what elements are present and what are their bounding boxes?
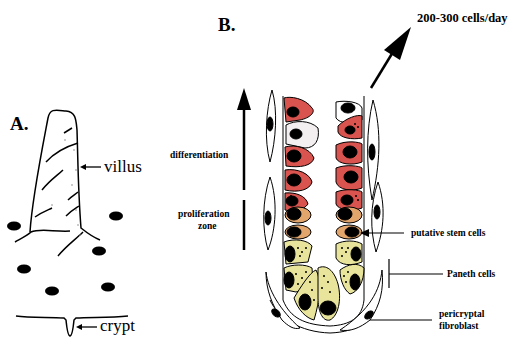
right-cell-column bbox=[336, 101, 362, 239]
fibroblast-label-2: fibroblast bbox=[439, 321, 478, 331]
left-cell-column bbox=[284, 97, 318, 239]
output-rate-label: 200-300 cells/day bbox=[417, 11, 508, 26]
paneth-cells bbox=[284, 240, 364, 320]
crypt-villus-diagram bbox=[0, 0, 529, 348]
stem-cells-label: putative stem cells bbox=[411, 228, 485, 238]
villus-pointer-arrow bbox=[80, 164, 101, 170]
paneth-bracket bbox=[389, 259, 443, 288]
proliferation-label: proliferation bbox=[178, 209, 230, 219]
panel-b-label: B. bbox=[218, 14, 235, 36]
fibroblast-label-1: pericryptal bbox=[439, 309, 484, 319]
crypt-label: crypt bbox=[100, 316, 135, 336]
villus-label: villus bbox=[104, 157, 142, 177]
cell-output-arrow bbox=[371, 27, 411, 88]
zone-label: zone bbox=[198, 221, 216, 231]
differentiation-label: differentiation bbox=[170, 150, 228, 160]
panel-a-label: A. bbox=[10, 113, 28, 135]
crypt-pointer-arrow bbox=[76, 324, 97, 330]
differentiation-arrow bbox=[237, 88, 251, 190]
paneth-cells-label: Paneth cells bbox=[447, 269, 495, 279]
crypt-openings bbox=[7, 212, 123, 296]
